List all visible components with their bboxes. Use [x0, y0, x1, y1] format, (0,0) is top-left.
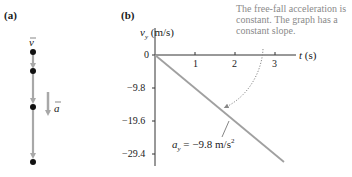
x-axis-label: t (s): [299, 50, 316, 61]
x-tick: 3: [272, 59, 277, 69]
panel-a-label: (a): [4, 10, 17, 21]
velocity-label: v: [29, 37, 34, 48]
y-tick: −29.4: [122, 149, 145, 159]
annotation-text: The free-fall acceleration is constant. …: [236, 3, 351, 36]
position-dot: [30, 68, 36, 74]
position-dot: [30, 104, 36, 110]
acceleration-equation: ay = −9.8 m/s2: [172, 138, 234, 153]
y-tick: −9.8: [127, 83, 145, 93]
y-axis-label: vy (m/s): [140, 27, 174, 41]
x-tick: 2: [232, 59, 237, 69]
position-dot: [30, 159, 36, 165]
equation-leader: [222, 121, 229, 137]
panel-b-label: (b): [121, 10, 134, 21]
y-tick: 0: [144, 50, 149, 60]
acceleration-label: a: [54, 103, 60, 114]
x-tick: 1: [193, 59, 198, 69]
position-dot: [30, 49, 36, 55]
y-tick: −19.6: [122, 116, 145, 126]
